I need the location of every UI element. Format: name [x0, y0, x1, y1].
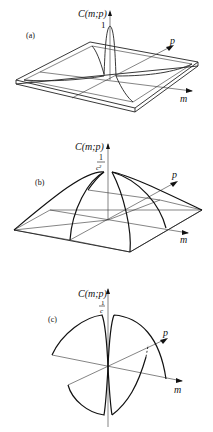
panel-b-peak-den: c² — [96, 164, 102, 172]
plateau-bottom-edge — [16, 66, 198, 112]
panel-b-m-label: m — [180, 234, 187, 245]
p-axis — [72, 46, 172, 98]
panel-b-label: (b) — [35, 178, 45, 187]
panel-a-surface-plot: C(m;p) 1 (a) p m — [0, 0, 213, 145]
panel-b-ylabel: C(m;p) — [75, 141, 105, 153]
panel-b: C(m;p) 1 c² (b) p m — [0, 140, 213, 290]
p-axis-arrow-icon — [170, 181, 178, 187]
m-axis-arrow-icon — [176, 378, 183, 383]
panel-b-p-label: p — [171, 169, 177, 180]
panel-a-peak-label: 1 — [101, 20, 106, 30]
panel-b-surface-plot: C(m;p) 1 c² (b) p m — [0, 140, 213, 290]
lobe-lower-right — [108, 357, 146, 415]
m-axis — [52, 355, 182, 381]
lobe-upper-left — [52, 315, 108, 367]
c-axis-arrow-icon — [108, 10, 112, 16]
panel-a-label: (a) — [26, 31, 35, 40]
panel-a-m-label: m — [180, 93, 187, 104]
panel-c-peak-den: c — [100, 307, 104, 315]
dome-edge-left — [14, 172, 104, 230]
lobe-lower-left — [68, 367, 108, 415]
panel-a: C(m;p) 1 (a) p m — [0, 0, 213, 145]
panel-c-p-label: p — [162, 327, 168, 338]
panel-c-m-label: m — [174, 384, 181, 395]
panel-a-ylabel: C(m;p) — [78, 8, 108, 20]
panel-c: C(m;p) 1 c (c) p m — [0, 285, 213, 432]
panel-c-label: (c) — [48, 315, 57, 324]
panel-c-surface-plot: C(m;p) 1 c (c) p m — [0, 285, 213, 432]
plateau-inner-rim — [24, 46, 192, 102]
p-axis — [68, 339, 166, 385]
p-axis-arrow-icon — [160, 338, 168, 344]
c-axis-arrow-icon — [106, 143, 110, 149]
panel-b-peak-num: 1 — [99, 153, 103, 162]
lobe-upper-right — [108, 315, 166, 379]
panel-a-p-label: p — [169, 35, 175, 46]
